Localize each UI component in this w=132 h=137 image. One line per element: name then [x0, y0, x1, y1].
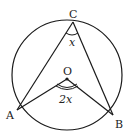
label-o: O — [63, 65, 72, 78]
diagram-canvas: C O A B x 2x — [0, 0, 132, 137]
radius-ob — [67, 79, 113, 115]
angle-label-o: 2x — [58, 93, 73, 106]
label-b: B — [115, 118, 123, 131]
angle-arc-c — [66, 33, 78, 35]
angle-label-c: x — [69, 36, 76, 49]
label-c: C — [69, 8, 77, 21]
label-a: A — [5, 109, 15, 122]
chord-cb — [73, 22, 113, 115]
